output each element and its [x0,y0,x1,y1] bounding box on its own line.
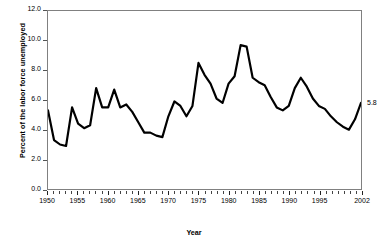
x-tick-mark [314,191,315,194]
x-tick-mark [180,191,181,194]
x-tick-label: 1990 [282,197,298,204]
x-tick-mark [144,191,145,194]
x-tick-mark [47,191,48,195]
x-tick-mark [283,191,284,194]
x-tick-mark [162,191,163,194]
plot-area [47,10,362,190]
x-tick-mark [326,191,327,194]
x-tick-mark [211,191,212,194]
x-tick-mark [168,191,169,195]
x-tick-mark [102,191,103,194]
x-tick-label: 1980 [221,197,237,204]
x-tick-mark [332,191,333,194]
x-tick-label: 1970 [160,197,176,204]
x-tick-mark [362,191,363,195]
x-tick-mark [156,191,157,194]
unemployment-line-chart: Percent of the labor force unemployed 12… [0,0,388,239]
x-tick-mark [307,191,308,194]
y-tick-label: 2.0 [31,155,41,162]
x-tick-mark [65,191,66,194]
x-tick-mark [126,191,127,194]
x-tick-label: 1950 [39,197,55,204]
x-tick-mark [89,191,90,194]
x-tick-mark [253,191,254,194]
y-tick-label: 4.0 [31,125,41,132]
x-tick-mark [235,191,236,194]
x-tick-mark [271,191,272,194]
x-tick-mark [259,191,260,195]
x-tick-mark [289,191,290,195]
x-tick-label: 1960 [100,197,116,204]
x-tick-mark [174,191,175,194]
endpoint-value-annotation: 5.8 [367,99,377,106]
x-axis-tick-labels: 1950195519601965197019751980198519901995… [0,197,388,209]
x-tick-label: 1975 [191,197,207,204]
x-tick-mark [344,191,345,194]
x-tick-mark [95,191,96,194]
unemployment-series-line [48,45,361,146]
x-tick-label: 1985 [251,197,267,204]
x-tick-mark [198,191,199,195]
x-tick-label: 1965 [130,197,146,204]
y-tick-label: 10.0 [27,35,41,42]
x-tick-label: 1955 [69,197,85,204]
x-tick-mark [53,191,54,194]
x-tick-mark [265,191,266,194]
x-tick-mark [229,191,230,195]
x-tick-mark [186,191,187,194]
x-tick-mark [83,191,84,194]
x-tick-mark [247,191,248,194]
x-tick-mark [120,191,121,194]
x-tick-mark [108,191,109,195]
y-tick-label: 0.0 [31,185,41,192]
x-tick-mark [77,191,78,195]
x-tick-mark [350,191,351,194]
x-tick-mark [320,191,321,195]
x-tick-mark [59,191,60,194]
x-tick-mark [71,191,72,194]
x-tick-mark [241,191,242,194]
x-tick-mark [114,191,115,194]
x-tick-mark [138,191,139,195]
y-tick-label: 6.0 [31,95,41,102]
x-tick-mark [356,191,357,194]
x-tick-mark [301,191,302,194]
x-tick-mark [217,191,218,194]
x-tick-mark [338,191,339,194]
x-tick-mark [295,191,296,194]
y-tick-label: 8.0 [31,65,41,72]
x-tick-label: 2002 [354,197,370,204]
x-tick-mark [277,191,278,194]
x-axis-title: Year [0,228,388,237]
x-tick-label: 1995 [312,197,328,204]
x-tick-mark [132,191,133,194]
y-axis-title: Percent of the labor force unemployed [18,6,27,176]
data-line-svg [48,11,361,189]
x-tick-mark [150,191,151,194]
y-tick-label: 12.0 [27,5,41,12]
x-tick-mark [192,191,193,194]
x-tick-mark [205,191,206,194]
x-tick-mark [223,191,224,194]
